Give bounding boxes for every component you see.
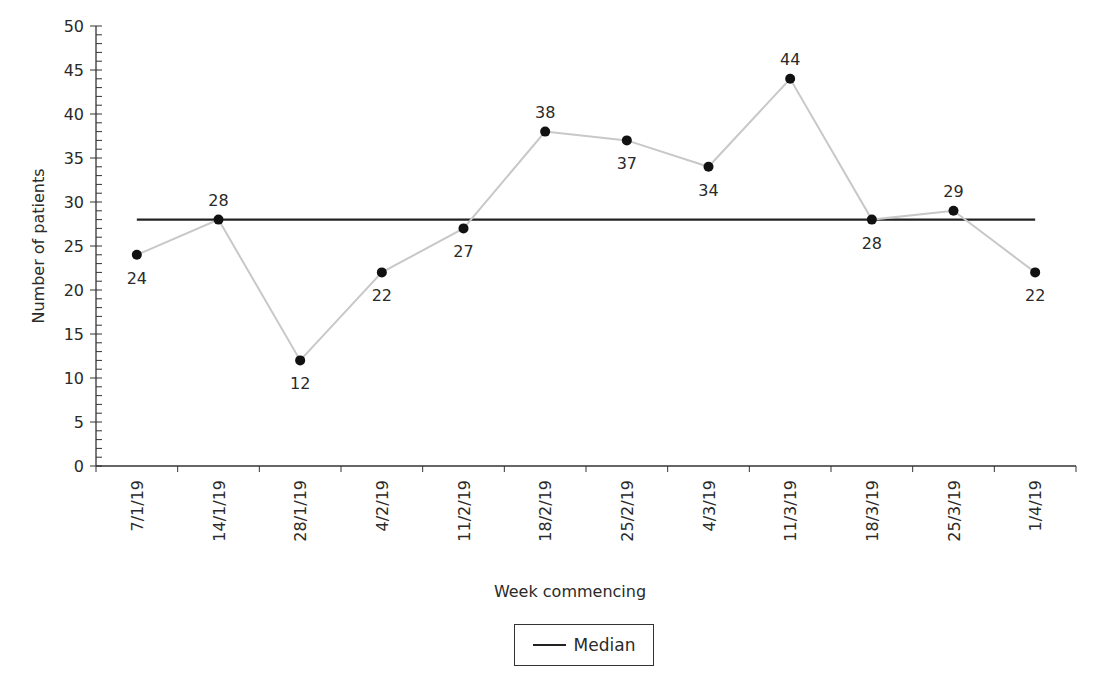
data-point-marker	[622, 135, 632, 145]
x-tick-label: 4/2/19	[373, 480, 392, 532]
data-labels: 242812222738373444282922	[127, 50, 1046, 394]
x-tick-label: 28/1/19	[291, 480, 310, 542]
data-label: 29	[943, 182, 963, 201]
median-line-swatch-icon	[533, 644, 566, 646]
x-tick-label: 25/2/19	[618, 480, 637, 542]
data-label: 22	[1025, 286, 1045, 305]
data-label: 27	[453, 242, 473, 261]
y-tick-label: 25	[64, 237, 84, 256]
x-axis: 7/1/1914/1/1928/1/194/2/1911/2/1918/2/19…	[96, 466, 1076, 542]
data-point-marker	[867, 215, 877, 225]
x-tick-label: 11/2/19	[455, 480, 474, 542]
y-tick-label: 0	[74, 457, 84, 476]
data-label: 38	[535, 103, 555, 122]
data-point-marker	[704, 162, 714, 172]
data-label: 12	[290, 374, 310, 393]
data-point-marker	[1030, 267, 1040, 277]
data-point-marker	[785, 74, 795, 84]
y-tick-label: 20	[64, 281, 84, 300]
data-label: 28	[862, 234, 882, 253]
y-tick-label: 45	[64, 61, 84, 80]
data-label: 44	[780, 50, 800, 69]
legend-label-median: Median	[574, 635, 636, 655]
data-point-marker	[949, 206, 959, 216]
x-tick-label: 4/3/19	[700, 480, 719, 532]
data-point-marker	[132, 250, 142, 260]
x-tick-label: 7/1/19	[128, 480, 147, 532]
legend: Median	[514, 624, 654, 666]
y-tick-label: 30	[64, 193, 84, 212]
data-point-marker	[214, 215, 224, 225]
line-chart: 05101520253035404550 7/1/1914/1/1928/1/1…	[0, 0, 1097, 688]
x-tick-label: 18/2/19	[536, 480, 555, 542]
data-label: 34	[698, 181, 718, 200]
x-tick-label: 25/3/19	[945, 480, 964, 542]
data-point-marker	[295, 355, 305, 365]
y-axis-title: Number of patients	[29, 168, 48, 323]
data-point-marker	[540, 127, 550, 137]
y-tick-label: 50	[64, 17, 84, 36]
data-label: 24	[127, 269, 147, 288]
y-tick-label: 35	[64, 149, 84, 168]
data-label: 22	[372, 286, 392, 305]
y-tick-label: 40	[64, 105, 84, 124]
data-label: 37	[617, 154, 637, 173]
x-axis-title: Week commencing	[494, 582, 646, 601]
x-tick-label: 18/3/19	[863, 480, 882, 542]
y-axis: 05101520253035404550	[64, 17, 102, 476]
x-tick-label: 1/4/19	[1026, 480, 1045, 532]
y-tick-label: 15	[64, 325, 84, 344]
x-tick-label: 11/3/19	[781, 480, 800, 542]
data-point-marker	[377, 267, 387, 277]
y-tick-label: 5	[74, 413, 84, 432]
data-label: 28	[208, 191, 228, 210]
y-tick-label: 10	[64, 369, 84, 388]
data-point-marker	[459, 223, 469, 233]
x-tick-label: 14/1/19	[210, 480, 229, 542]
